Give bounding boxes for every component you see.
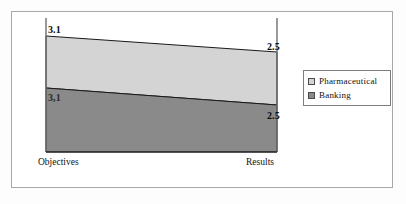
axis-label-results: Results: [246, 157, 274, 167]
legend-swatch-banking: [308, 92, 315, 99]
legend-label-pharmaceutical: Pharmaceutical: [319, 76, 377, 86]
legend-item-banking[interactable]: Banking: [308, 88, 387, 102]
chart-legend: Pharmaceutical Banking: [303, 70, 391, 106]
value-label-results-bottom: 2.5: [267, 110, 280, 121]
value-label-objectives-bottom: 3,1: [48, 92, 61, 103]
legend-item-pharmaceutical[interactable]: Pharmaceutical: [308, 74, 387, 88]
axis-label-objectives: Objectives: [38, 157, 79, 167]
value-label-objectives-top: 3.1: [48, 24, 61, 35]
chart-figure: 3.1 2.5 3,1 2.5 Objectives Results Pharm…: [0, 0, 406, 204]
legend-swatch-pharmaceutical: [308, 78, 315, 85]
value-label-results-top: 2.5: [267, 41, 280, 52]
legend-label-banking: Banking: [319, 90, 351, 100]
